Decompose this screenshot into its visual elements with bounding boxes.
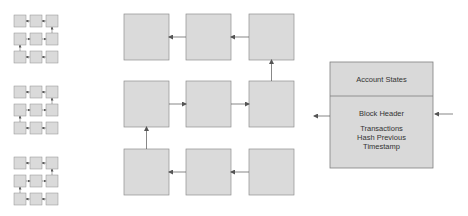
state-cell [14, 33, 26, 45]
account-states-label: Account States [356, 75, 407, 84]
state-cell [249, 81, 294, 127]
state-cell [30, 51, 42, 63]
state-cell [14, 51, 26, 63]
state-cell [46, 175, 58, 187]
block-box: Account States Block Header Transactions… [330, 62, 433, 168]
state-cell [14, 15, 26, 27]
state-cell [46, 33, 58, 45]
mini-grid-1 [14, 15, 58, 63]
state-cell [14, 122, 26, 134]
state-cell [14, 193, 26, 205]
hash-previous-field: Hash Previous [357, 133, 406, 142]
state-cell [30, 193, 42, 205]
state-cell [30, 15, 42, 27]
state-cell [186, 149, 231, 195]
state-cell [30, 175, 42, 187]
state-cell [46, 86, 58, 98]
block-header-label: Block Header [359, 109, 405, 118]
large-state-grid [124, 14, 294, 195]
state-cell [124, 81, 169, 127]
state-cell [124, 149, 169, 195]
state-cell [46, 104, 58, 116]
state-cell [186, 81, 231, 127]
blockchain-diagram: Account States Block Header Transactions… [0, 0, 468, 216]
state-cell [46, 15, 58, 27]
mini-grids [14, 15, 58, 205]
state-cell [46, 122, 58, 134]
state-cell [124, 14, 169, 60]
state-cell [30, 86, 42, 98]
state-cell [249, 149, 294, 195]
state-cell [14, 104, 26, 116]
state-cell [249, 14, 294, 60]
state-cell [14, 86, 26, 98]
state-cell [186, 14, 231, 60]
transactions-field: Transactions [360, 124, 403, 133]
state-cell [30, 104, 42, 116]
state-cell [30, 122, 42, 134]
state-cell [30, 157, 42, 169]
state-cell [30, 33, 42, 45]
timestamp-field: Timestamp [363, 142, 400, 151]
mini-grid-3 [14, 157, 58, 205]
state-cell [14, 157, 26, 169]
state-cell [46, 157, 58, 169]
mini-grid-2 [14, 86, 58, 134]
state-cell [46, 51, 58, 63]
state-cell [14, 175, 26, 187]
state-cell [46, 193, 58, 205]
